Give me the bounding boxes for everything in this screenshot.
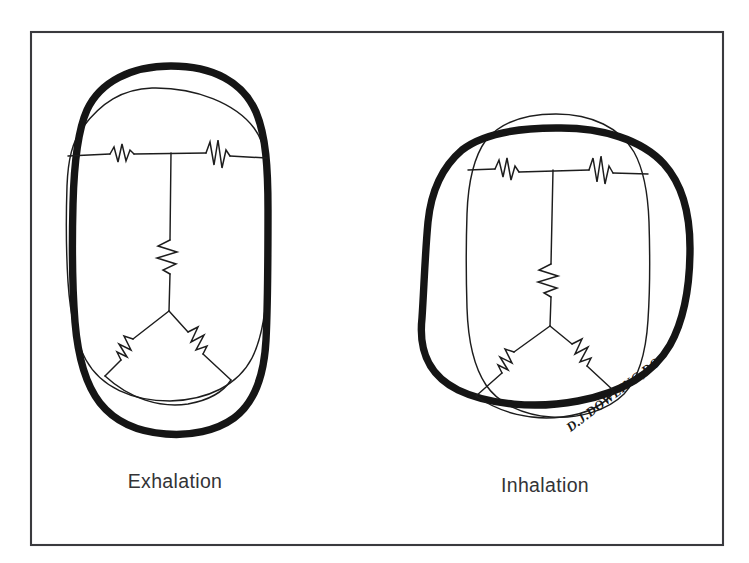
exhalation-horizontal-member-mid — [134, 153, 206, 154]
inhalation-horizontal-member-right — [613, 173, 648, 174]
diagram-canvas: Exhalation — [0, 0, 749, 563]
caption-exhalation: Exhalation — [128, 470, 223, 492]
frame-border — [31, 32, 723, 545]
exhalation-vertical-member-upper — [170, 153, 171, 240]
inhalation-vertical-member-lower — [550, 297, 551, 326]
inhalation-horizontal-member-left — [468, 169, 495, 170]
caption-inhalation: Inhalation — [501, 474, 589, 496]
breathing-diagram-svg: Exhalation — [0, 0, 749, 563]
exhalation-vertical-member-lower — [169, 274, 170, 311]
